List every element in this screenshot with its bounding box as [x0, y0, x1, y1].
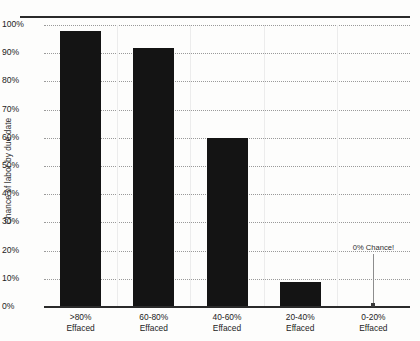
- category-separator: [264, 25, 265, 307]
- x-axis-tick-label-line1: 0-20%: [361, 312, 385, 322]
- x-axis-tick-label-line1: >80%: [70, 312, 92, 322]
- y-axis-tick-label: 100%: [2, 20, 42, 29]
- y-axis-tick-label: 70%: [2, 105, 42, 114]
- x-axis-tick-label-line2: Effaced: [44, 323, 117, 334]
- x-axis-tick-label: 60-80%Effaced: [117, 312, 190, 334]
- x-axis-tick-label-line2: Effaced: [264, 323, 337, 334]
- bar: [60, 31, 101, 307]
- x-axis-tick-label-line1: 20-40%: [286, 312, 315, 322]
- annotation-endpoint-dot: [371, 303, 375, 307]
- x-axis-tick-label: 40-60%Effaced: [190, 312, 263, 334]
- y-axis-tick-label: 10%: [2, 274, 42, 283]
- category-separator: [190, 25, 191, 307]
- y-axis-tick-label: 50%: [2, 161, 42, 170]
- y-axis-tick-label: 30%: [2, 217, 42, 226]
- category-separator: [117, 25, 118, 307]
- annotation-leader-line: [373, 254, 374, 305]
- y-axis-tick-labels: 100%90%80%70%60%50%40%30%20%10%0%: [0, 25, 42, 307]
- x-axis-tick-label-line2: Effaced: [190, 323, 263, 334]
- y-axis-tick-label: 80%: [2, 76, 42, 85]
- x-axis-tick-label-line2: Effaced: [337, 323, 410, 334]
- top-divider-rule: [20, 16, 410, 18]
- y-axis-tick-label: 20%: [2, 246, 42, 255]
- bar: [280, 282, 321, 307]
- x-axis-tick-label: >80%Effaced: [44, 312, 117, 334]
- x-axis-tick-label-line1: 40-60%: [213, 312, 242, 322]
- y-axis-tick-label: 0%: [2, 302, 42, 311]
- x-axis-line: [44, 306, 410, 308]
- bar: [207, 138, 248, 307]
- y-axis-tick-label: 90%: [2, 48, 42, 57]
- gridline: [44, 25, 410, 26]
- x-axis-tick-label: 20-40%Effaced: [264, 312, 337, 334]
- x-axis-tick-label-line1: 60-80%: [139, 312, 168, 322]
- category-separator: [337, 25, 338, 307]
- y-axis-tick-label: 40%: [2, 189, 42, 198]
- y-axis-tick-label: 60%: [2, 133, 42, 142]
- x-axis-tick-label-line2: Effaced: [117, 323, 190, 334]
- bar-chart: Chance of labor by due date 100%90%80%70…: [0, 0, 420, 341]
- bar: [133, 48, 174, 307]
- plot-area: [44, 25, 410, 307]
- annotation-label: 0% Chance!: [328, 243, 418, 252]
- x-axis-tick-label: 0-20%Effaced: [337, 312, 410, 334]
